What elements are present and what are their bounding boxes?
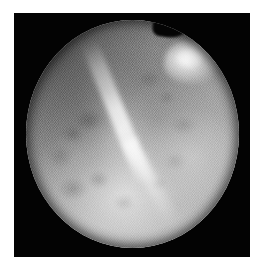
- endoscopic-figure: [0, 0, 262, 273]
- circular-rim-falloff: [26, 20, 239, 248]
- circular-field-of-view: [26, 20, 239, 248]
- capture-frame: [14, 13, 250, 257]
